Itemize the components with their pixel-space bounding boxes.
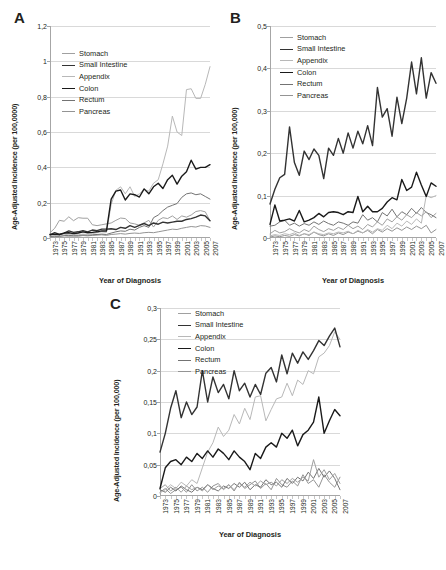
legend-label: Pancreas [195, 368, 226, 376]
x-tick-label: 1977 [72, 241, 79, 256]
x-tick-label: 1979 [81, 241, 88, 256]
x-tick-mark [329, 238, 330, 241]
series-line-appendix [270, 196, 436, 236]
legend-swatch-colon-icon [62, 88, 75, 89]
legend-swatch-colon-icon [178, 348, 191, 349]
legend-label: Appendix [195, 333, 226, 341]
panel-a-letter: A [14, 10, 25, 25]
legend-item-small-intestine: Small Intestine [62, 60, 127, 72]
legend-item-appendix: Appendix [62, 71, 127, 83]
x-tick-mark [290, 238, 291, 241]
y-tick-label: 1,2 [37, 23, 47, 30]
x-tick-label: 1979 [302, 241, 309, 256]
x-tick-mark [358, 238, 359, 241]
x-tick-mark [319, 496, 320, 499]
panel-b-legend: StomachSmall IntestineAppendixColonRectu… [280, 32, 345, 102]
panel-b-y-axis-label: Age-Adjusted Incidence (per 100,000) [230, 108, 239, 230]
legend-swatch-rectum-icon [178, 360, 191, 361]
legend-item-small-intestine: Small Intestine [280, 44, 345, 56]
legend-item-pancreas: Pancreas [280, 90, 345, 102]
x-tick-label: 1985 [109, 241, 116, 256]
x-tick-mark [50, 238, 51, 241]
x-tick-label: 1989 [248, 499, 255, 514]
x-tick-mark [368, 238, 369, 241]
x-tick-label: 1997 [166, 241, 173, 256]
x-tick-label: 1993 [269, 499, 276, 514]
y-tick-label: 0,4 [37, 164, 47, 171]
x-tick-label: 2005 [429, 241, 436, 256]
x-tick-label: 1977 [184, 499, 191, 514]
series-line-stomach [160, 460, 340, 493]
legend-item-colon: Colon [280, 67, 345, 79]
legend-item-rectum: Rectum [62, 94, 127, 106]
legend-item-appendix: Appendix [280, 55, 345, 67]
x-tick-label: 1987 [341, 241, 348, 256]
x-tick-label: 2001 [410, 241, 417, 256]
series-line-rectum [50, 193, 210, 237]
x-tick-mark [280, 238, 281, 241]
y-tick-label: 0,2 [37, 199, 47, 206]
legend-swatch-small-intestine-icon [62, 65, 75, 66]
panel-c-letter: C [110, 296, 121, 311]
panel-a-x-axis-label: Year of Diagnosis [50, 276, 210, 285]
legend-item-small-intestine: Small Intestine [178, 320, 243, 332]
legend-label: Stomach [297, 34, 326, 42]
legend-swatch-small-intestine-icon [178, 325, 191, 326]
legend-swatch-pancreas-icon [178, 371, 191, 372]
y-tick-label: 0,25 [143, 336, 157, 343]
x-tick-mark [348, 238, 349, 241]
legend-swatch-stomach-icon [62, 53, 75, 54]
legend-swatch-appendix-icon [280, 60, 293, 61]
x-tick-mark [266, 496, 267, 499]
x-tick-mark [192, 496, 193, 499]
x-tick-label: 1985 [332, 241, 339, 256]
x-tick-mark [182, 238, 183, 241]
panel-c-y-axis-label: Age-Adjusted Incidence (per 100,000) [112, 380, 121, 502]
x-tick-mark [88, 238, 89, 241]
legend-item-pancreas: Pancreas [62, 106, 127, 118]
x-tick-label: 1983 [216, 499, 223, 514]
legend-label: Pancreas [297, 92, 328, 100]
legend-label: Pancreas [79, 108, 110, 116]
panel-c-legend: StomachSmall IntestineAppendixColonRectu… [178, 308, 243, 378]
x-tick-mark [69, 238, 70, 241]
x-tick-label: 1989 [128, 241, 135, 256]
x-tick-label: 1981 [205, 499, 212, 514]
x-tick-mark [270, 238, 271, 241]
x-tick-label: 1999 [175, 241, 182, 256]
legend-swatch-small-intestine-icon [280, 49, 293, 50]
x-tick-mark [201, 238, 202, 241]
x-tick-label: 1979 [195, 499, 202, 514]
panel-b-x-axis-label: Year of Diagnosis [270, 276, 436, 285]
y-tick-label: 0 [263, 235, 267, 242]
x-tick-label: 1985 [227, 499, 234, 514]
series-line-colon [160, 397, 340, 488]
legend-label: Rectum [79, 96, 104, 104]
legend-label: Appendix [297, 57, 328, 65]
panel-a-y-axis-label: Age-Adjusted Incidence (per 100,0000) [10, 104, 19, 230]
x-tick-label: 2007 [439, 241, 446, 256]
x-tick-label: 1973 [53, 241, 60, 256]
x-tick-label: 1987 [237, 499, 244, 514]
x-tick-label: 1999 [301, 499, 308, 514]
legend-swatch-appendix-icon [62, 76, 75, 77]
legend-item-rectum: Rectum [178, 354, 243, 366]
x-tick-label: 2003 [194, 241, 201, 256]
legend-item-stomach: Stomach [178, 308, 243, 320]
legend-swatch-appendix-icon [178, 336, 191, 337]
figure-container: A Age-Adjusted Incidence (per 100,0000) … [0, 0, 446, 570]
legend-label: Colon [79, 85, 98, 93]
x-tick-mark [287, 496, 288, 499]
x-tick-label: 1995 [279, 499, 286, 514]
panel-b: B Age-Adjusted Incidence (per 100,000) 0… [218, 4, 446, 288]
x-tick-label: 1989 [351, 241, 358, 256]
x-tick-label: 1997 [390, 241, 397, 256]
legend-swatch-stomach-icon [280, 37, 293, 38]
x-tick-label: 1997 [290, 499, 297, 514]
y-tick-label: 0,3 [147, 305, 157, 312]
legend-label: Small Intestine [297, 45, 345, 53]
legend-swatch-pancreas-icon [280, 95, 293, 96]
x-tick-label: 1975 [283, 241, 290, 256]
legend-swatch-rectum-icon [280, 84, 293, 85]
legend-label: Stomach [195, 310, 224, 318]
